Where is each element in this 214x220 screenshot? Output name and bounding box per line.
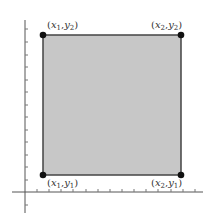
point-x2-y2 bbox=[178, 32, 185, 39]
label-x1-y1: (x1,y1) bbox=[47, 177, 78, 190]
point-x1-y2 bbox=[40, 32, 47, 39]
shaded-rectangle bbox=[43, 35, 181, 175]
label-x2-y1: (x2,y1) bbox=[151, 177, 182, 190]
rectangle-diagram: (x1,y2) (x2,y2) (x1,y1) (x2,y1) bbox=[0, 0, 214, 220]
label-x1-y2: (x1,y2) bbox=[47, 19, 78, 32]
label-x2-y2: (x2,y2) bbox=[151, 19, 182, 32]
point-x1-y1 bbox=[40, 172, 47, 179]
